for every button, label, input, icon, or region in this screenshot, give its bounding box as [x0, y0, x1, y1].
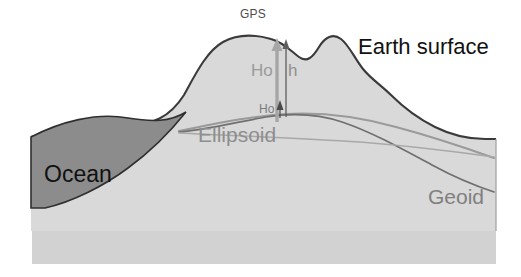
ellipsoidal-height-label: Ho [251, 62, 273, 79]
geoid-label: Geoid [428, 186, 484, 207]
h-label: h [288, 62, 297, 79]
ocean-label: Ocean [44, 163, 112, 186]
geoid-ellipsoid-diagram: GPS Earth surface Ho h Ho Ellipsoid Ocea… [0, 0, 521, 277]
gps-label: GPS [240, 8, 266, 20]
orthometric-height-label: Ho [259, 103, 274, 115]
ellipsoid-label: Ellipsoid [198, 124, 276, 145]
earth-surface-label: Earth surface [358, 36, 489, 58]
